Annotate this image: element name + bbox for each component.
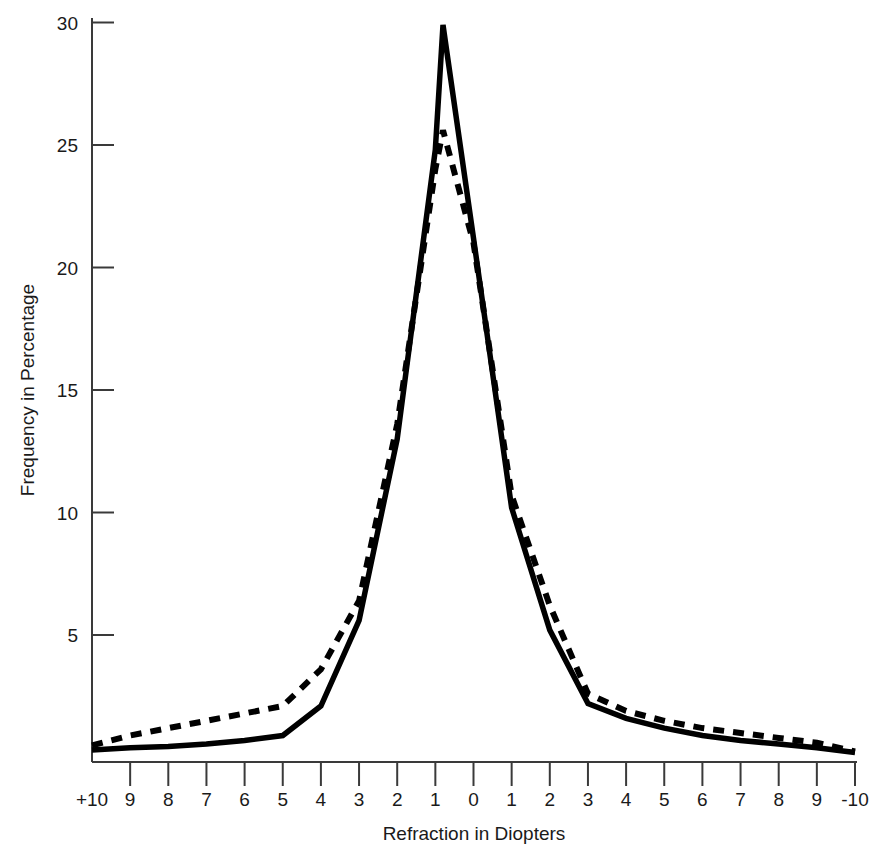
- x-tick-label: 7: [201, 789, 212, 810]
- y-tick-label: 20: [57, 258, 78, 279]
- x-tick-label: -10: [841, 789, 868, 810]
- y-tick-label: 5: [67, 625, 78, 646]
- y-tick-labels: 51015202530: [57, 13, 78, 647]
- line-chart: 51015202530 +109876543210123456789-10 Re…: [0, 0, 869, 865]
- x-tick-label: 1: [506, 789, 517, 810]
- x-tick-label: 7: [735, 789, 746, 810]
- y-tick-marks: [92, 23, 114, 636]
- x-tick-labels: +109876543210123456789-10: [76, 789, 869, 810]
- x-tick-label: 2: [392, 789, 403, 810]
- x-tick-label: 6: [239, 789, 250, 810]
- x-tick-label: 3: [583, 789, 594, 810]
- x-tick-marks: [130, 762, 855, 786]
- x-tick-label: 6: [697, 789, 708, 810]
- series-line-solid: [92, 25, 855, 753]
- x-tick-label: 9: [812, 789, 823, 810]
- x-tick-label: 3: [354, 789, 365, 810]
- x-tick-label: 4: [316, 789, 327, 810]
- x-tick-label: 8: [163, 789, 174, 810]
- x-tick-label: 4: [621, 789, 632, 810]
- x-tick-label: 5: [277, 789, 288, 810]
- x-tick-label: 0: [468, 789, 479, 810]
- x-tick-label: 1: [430, 789, 441, 810]
- chart-figure: 51015202530 +109876543210123456789-10 Re…: [0, 0, 869, 865]
- x-tick-label: 8: [773, 789, 784, 810]
- x-tick-label: +10: [76, 789, 108, 810]
- y-tick-label: 15: [57, 380, 78, 401]
- x-tick-label: 2: [545, 789, 556, 810]
- x-axis-title: Refraction in Diopters: [383, 823, 566, 844]
- y-tick-label: 25: [57, 135, 78, 156]
- y-tick-label: 30: [57, 13, 78, 34]
- x-tick-label: 9: [125, 789, 136, 810]
- x-tick-label: 5: [659, 789, 670, 810]
- y-tick-label: 10: [57, 503, 78, 524]
- y-axis-title: Frequency in Percentage: [17, 284, 38, 496]
